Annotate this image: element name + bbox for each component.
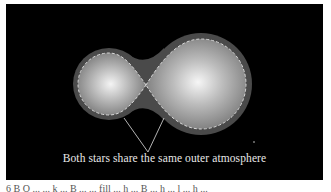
- diagram-panel: Both stars share the same outer atmosphe…: [6, 4, 323, 180]
- figure-caption-partial: 6 B O ... ... k ... B ... ... fill ... h…: [6, 183, 208, 192]
- background-star-dot: [253, 141, 255, 143]
- atmosphere-label: Both stars share the same outer atmosphe…: [6, 152, 323, 164]
- leader-lines: [124, 118, 164, 152]
